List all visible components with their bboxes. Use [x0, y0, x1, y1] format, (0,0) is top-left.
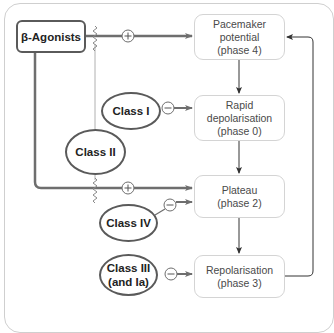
class-i-oval: Class I: [101, 92, 161, 130]
phase-3-repolarisation-box: Repolarisation (phase 3): [194, 255, 285, 298]
class-iii-oval: Class III (and Ia): [99, 254, 158, 296]
phase-0-line-1: Rapid: [226, 99, 253, 112]
phase-4-pacemaker-box: Pacemaker potential (phase 4): [194, 14, 285, 60]
beta-agonists-label: β-Agonists: [21, 31, 81, 43]
class-iii-label-line-1: Class III: [107, 261, 150, 275]
phase-0-line-2: depolarisation: [207, 112, 272, 125]
phase-4-line-2: potential: [220, 31, 260, 44]
class-iii-label-line-2: (and Ia): [108, 275, 149, 289]
phase-2-line-2: (phase 2): [217, 197, 261, 210]
phase-0-line-3: (phase 0): [217, 125, 261, 138]
phase-4-line-3: (phase 4): [217, 44, 261, 57]
phase-2-plateau-box: Plateau (phase 2): [194, 175, 285, 218]
phase-4-line-1: Pacemaker: [213, 18, 266, 31]
class-ii-oval: Class II: [65, 129, 126, 175]
phase-3-line-2: (phase 3): [217, 277, 261, 290]
class-ii-label: Class II: [75, 145, 115, 159]
beta-agonists-box: β-Agonists: [16, 20, 86, 53]
class-i-label: Class I: [112, 104, 149, 118]
phase-3-line-1: Repolarisation: [206, 264, 273, 277]
phase-0-rapid-depolarisation-box: Rapid depolarisation (phase 0): [194, 95, 285, 141]
phase-2-line-1: Plateau: [222, 184, 258, 197]
class-iv-oval: Class IV: [99, 204, 158, 242]
class-iv-label: Class IV: [106, 216, 151, 230]
